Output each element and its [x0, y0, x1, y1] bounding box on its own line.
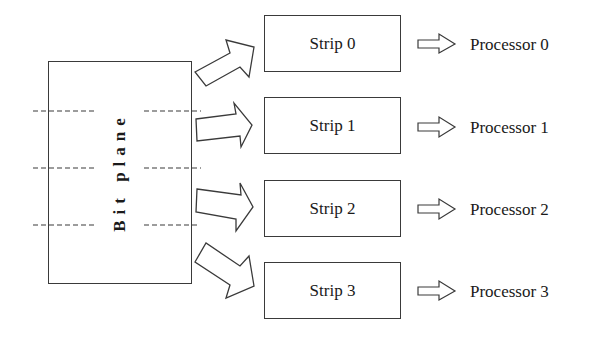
block-arrow-strip-1-icon [196, 103, 252, 147]
small-arrow-processor-0-icon [418, 34, 455, 53]
processor-label-1: Processor 1 [470, 118, 549, 138]
processor-label-3: Processor 3 [470, 282, 549, 302]
block-arrow-strip-2-icon [196, 183, 253, 231]
small-arrow-processor-1-icon [418, 117, 455, 137]
small-arrow-processor-3-icon [418, 281, 455, 300]
block-arrow-strip-3-icon [195, 243, 254, 298]
strip-label-2: Strip 2 [310, 199, 356, 219]
strip-box-3: Strip 3 [264, 262, 401, 319]
processor-label-2: Processor 2 [470, 200, 549, 220]
diagram-canvas: Bit plane [0, 0, 609, 342]
processor-label-0: Processor 0 [470, 35, 549, 55]
strip-label-1: Strip 1 [310, 116, 356, 136]
strip-box-0: Strip 0 [264, 15, 401, 72]
strip-label-3: Strip 3 [310, 281, 356, 301]
partition-lines [33, 111, 201, 225]
block-arrow-strip-0-icon [195, 40, 254, 86]
strip-box-1: Strip 1 [264, 97, 401, 154]
strip-box-2: Strip 2 [264, 180, 401, 237]
strip-label-0: Strip 0 [310, 34, 356, 54]
small-arrow-processor-2-icon [418, 199, 455, 219]
